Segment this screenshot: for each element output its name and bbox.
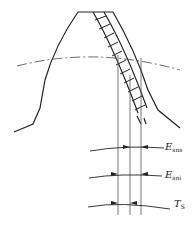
bottom-flank-stubs [137, 116, 146, 124]
dimension-arc-ts [88, 204, 170, 209]
reference-lines [118, 55, 141, 215]
dimension-arc-esni [89, 175, 162, 178]
diagram-drawing [0, 0, 194, 226]
label-esns-sub: sns [172, 146, 182, 153]
hatch-band-left [93, 12, 138, 113]
label-esni-sub: sni [172, 174, 181, 181]
label-ts-main: T [174, 198, 181, 209]
tooth-left-flank [14, 12, 78, 132]
tooth-right-flank [113, 12, 180, 128]
gear-tooth-diagram: Esns Esni TS [0, 0, 194, 226]
label-esns: Esns [165, 142, 182, 155]
label-esni: Esni [165, 170, 181, 183]
label-ts: TS [174, 199, 185, 212]
pitch-circle [17, 57, 180, 70]
label-ts-sub: S [181, 203, 185, 210]
